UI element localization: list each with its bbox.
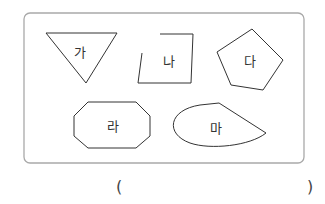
shape-label-da: 다 <box>244 54 256 69</box>
figure-frame <box>24 13 304 163</box>
open-paren: ( <box>116 177 122 196</box>
shapes-figure: 가 나 다 라 마 <box>0 0 325 204</box>
shape-label-ga: 가 <box>74 45 86 60</box>
shape-label-ma: 마 <box>210 121 222 136</box>
shape-label-ra: 라 <box>107 119 119 134</box>
close-paren: ) <box>307 177 313 196</box>
shape-label-na: 나 <box>163 54 175 69</box>
